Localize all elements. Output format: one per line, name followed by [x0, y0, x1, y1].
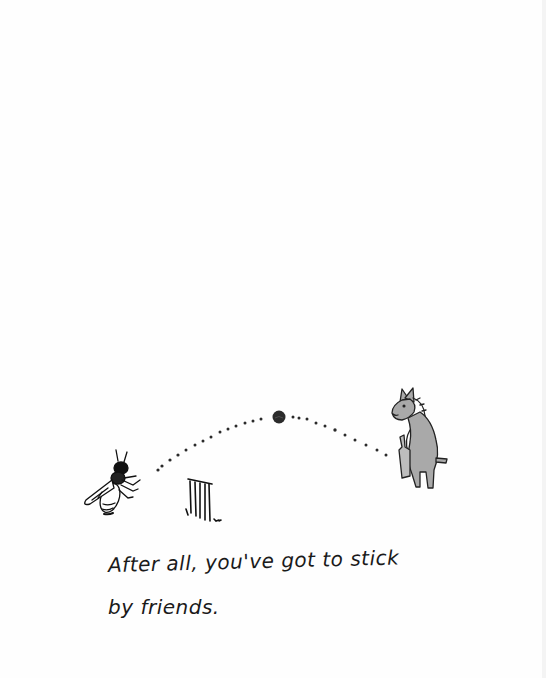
- donkey-character: [392, 388, 447, 488]
- bee-character: [85, 450, 140, 515]
- cricket-ball: [273, 411, 286, 424]
- caption-line-2: by friends.: [108, 587, 468, 627]
- caption-line-1: After all, you've got to stick: [107, 536, 468, 585]
- wicket-stumps: [186, 479, 221, 521]
- book-page: After all, you've got to stick by friend…: [0, 0, 546, 678]
- ball-trajectory-dots: [156, 416, 387, 472]
- handwritten-caption: After all, you've got to stick by friend…: [108, 545, 468, 627]
